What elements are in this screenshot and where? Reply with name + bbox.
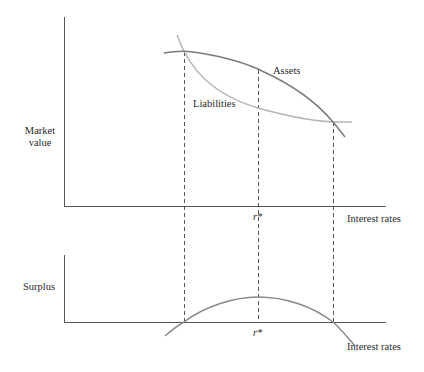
top-y-axis-label-line2: value <box>20 137 60 149</box>
bottom-r-star-label: r* <box>253 327 262 339</box>
assets-label: Assets <box>273 65 300 77</box>
top-panel-axes <box>64 17 386 207</box>
dashed-guides <box>185 52 334 322</box>
bottom-x-axis-label: Interest rates <box>347 341 401 353</box>
bottom-y-axis-label: Surplus <box>23 281 55 293</box>
liabilities-label: Liabilities <box>193 98 236 110</box>
bottom-panel-axes <box>64 255 386 323</box>
top-x-axis-label: Interest rates <box>347 213 401 225</box>
top-r-star-label: r* <box>253 211 262 223</box>
top-y-axis-label-line1: Market <box>20 125 60 137</box>
top-y-axis-label: Market value <box>20 125 60 149</box>
surplus-diagram <box>0 0 424 372</box>
